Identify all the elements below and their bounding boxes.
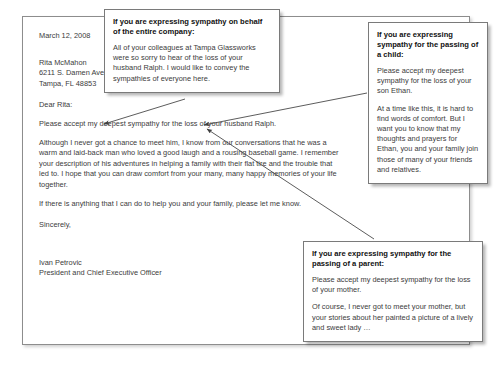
callout-parent-title: If you are expressing sympathy for the p… (312, 249, 474, 269)
callout-parent-paragraph-1: Please accept my deepest sympathy for th… (312, 275, 474, 295)
callout-company-title: If you are expressing sympathy on behalf… (113, 17, 271, 37)
letter-body-paragraph: Although I never got a chance to meet hi… (39, 138, 339, 191)
callout-box-passing-of-a-child: If you are expressing sympathy for the p… (368, 22, 488, 184)
letter-sign-off: Sincerely, (39, 220, 339, 231)
callout-child-paragraph-1: Please accept my deepest sympathy for th… (377, 66, 479, 97)
letter-opening-line: Please accept my deepest sympathy for th… (39, 119, 339, 130)
screenshot-canvas: March 12, 2008 Rita McMahon 6211 S. Dame… (0, 0, 500, 368)
callout-child-title: If you are expressing sympathy for the p… (377, 30, 479, 60)
signer-title: President and Chief Executive Officer (39, 268, 339, 279)
callout-box-entire-company: If you are expressing sympathy on behalf… (104, 9, 280, 93)
callout-parent-paragraph-2: Of course, I never got to meet your moth… (312, 302, 474, 333)
callout-box-passing-of-a-parent: If you are expressing sympathy for the p… (303, 241, 483, 342)
callout-child-paragraph-2: At a time like this, it is hard to find … (377, 104, 479, 175)
callout-company-paragraph-1: All of your colleagues at Tampa Glasswor… (113, 43, 271, 84)
letter-closing-paragraph: If there is anything that I can do to he… (39, 199, 339, 210)
signer-name: Ivan Petrovic (39, 258, 339, 269)
letter-salutation: Dear Rita: (39, 100, 339, 111)
